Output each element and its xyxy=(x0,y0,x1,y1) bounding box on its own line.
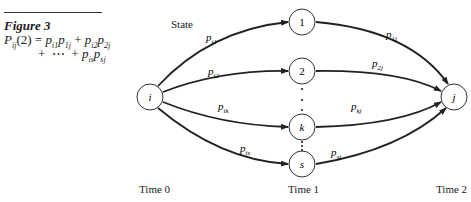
edge-label-2j: p2j xyxy=(371,57,383,72)
node-1: 1 xyxy=(289,9,315,35)
edge-label-1j: p1j xyxy=(385,28,397,43)
svg-text:s: s xyxy=(300,158,304,170)
time-label-1: Time 1 xyxy=(288,183,319,195)
transition-diagram: i 1 2 k s j pi1 pi2 pik pis p1j p2j pkj … xyxy=(0,0,471,202)
vertical-ellipsis-2-k xyxy=(301,88,303,111)
svg-text:2: 2 xyxy=(299,65,305,77)
edge-label-kj: pkj xyxy=(350,100,362,115)
edge-i-s xyxy=(158,108,288,164)
vertical-ellipsis-k-s xyxy=(301,141,303,151)
svg-text:1: 1 xyxy=(299,16,305,28)
svg-text:i: i xyxy=(148,91,151,103)
edge-i-2 xyxy=(163,71,288,92)
node-i: i xyxy=(137,84,163,110)
node-j: j xyxy=(441,84,467,110)
edge-label-ik: pik xyxy=(217,100,229,115)
node-2: 2 xyxy=(289,58,315,84)
node-k: k xyxy=(289,114,315,140)
edge-label-sj: psj xyxy=(330,146,341,161)
node-s: s xyxy=(289,151,315,177)
time-label-0: Time 0 xyxy=(139,183,170,195)
edge-k-j xyxy=(316,102,441,127)
edge-label-i1: pi1 xyxy=(205,31,217,46)
edge-2-j xyxy=(316,71,441,91)
time-label-2: Time 2 xyxy=(436,183,467,195)
